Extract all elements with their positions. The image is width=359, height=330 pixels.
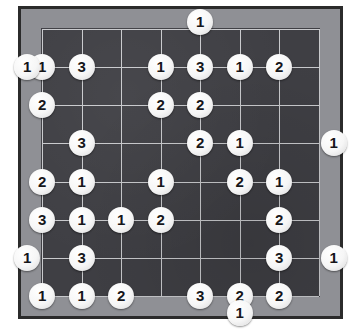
stone-r5-c6[interactable]: 2 — [266, 207, 292, 233]
stone-r5-c0[interactable]: 3 — [29, 207, 55, 233]
stone-r6-left[interactable]: 1 — [14, 245, 40, 271]
stone-r4-c6[interactable]: 1 — [266, 169, 292, 195]
stone-r6-c1[interactable]: 3 — [69, 245, 95, 271]
grid-line-horizontal — [42, 105, 319, 106]
stone-r5-c2[interactable]: 1 — [108, 207, 134, 233]
stone-r4-c0[interactable]: 2 — [29, 169, 55, 195]
stone-r3-right[interactable]: 1 — [321, 130, 347, 156]
stone-r7-c2[interactable]: 2 — [108, 283, 134, 309]
stone-r3-c5[interactable]: 1 — [227, 130, 253, 156]
stone-r1-c3[interactable]: 1 — [148, 54, 174, 80]
grid-line-horizontal — [42, 29, 319, 30]
stone-r7-c1[interactable]: 1 — [69, 283, 95, 309]
stone-top-c4[interactable]: 1 — [187, 9, 213, 35]
stone-r5-c3[interactable]: 2 — [148, 207, 174, 233]
grid-line-vertical — [319, 29, 320, 296]
stone-r4-c5[interactable]: 2 — [227, 169, 253, 195]
stone-bottom-c5[interactable]: 1 — [227, 300, 253, 326]
grid-line-vertical — [121, 29, 122, 296]
stone-r5-c1[interactable]: 1 — [69, 207, 95, 233]
page-background: 111313122223211211213112213311123221 — [0, 0, 359, 330]
stone-r4-c3[interactable]: 1 — [148, 169, 174, 195]
stone-r3-c1[interactable]: 3 — [69, 130, 95, 156]
stone-r1-c1[interactable]: 3 — [69, 54, 95, 80]
stone-r7-c6[interactable]: 2 — [266, 283, 292, 309]
stone-r7-c0[interactable]: 1 — [29, 283, 55, 309]
board-frame: 111313122223211211213112213311123221 — [21, 9, 340, 316]
stone-r7-c4[interactable]: 3 — [187, 283, 213, 309]
stone-r4-c1[interactable]: 1 — [69, 169, 95, 195]
stone-r6-right[interactable]: 1 — [321, 245, 347, 271]
stone-r2-c3[interactable]: 2 — [148, 92, 174, 118]
board-outer-border: 111313122223211211213112213311123221 — [18, 6, 343, 319]
stone-r1-c5[interactable]: 1 — [227, 54, 253, 80]
